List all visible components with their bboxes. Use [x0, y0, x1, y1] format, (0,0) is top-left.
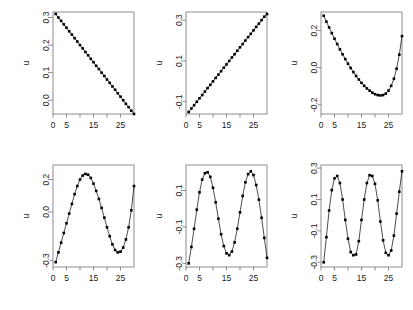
- data-point-marker: [252, 174, 255, 177]
- data-line: [324, 171, 402, 262]
- data-point-marker: [117, 251, 120, 254]
- x-tick-label: 0: [51, 120, 56, 130]
- x-tick-label: 5: [64, 120, 69, 130]
- y-tick-label: 0.3: [41, 11, 51, 23]
- y-tick-label: -0.1: [309, 223, 319, 238]
- data-point-marker: [366, 182, 369, 185]
- data-point-marker: [65, 222, 68, 225]
- plot-box-6: [321, 165, 402, 267]
- data-point-marker: [371, 175, 374, 178]
- x-tick-label: 5: [197, 273, 202, 283]
- data-point-marker: [398, 53, 401, 56]
- y-axis-title: u: [21, 60, 31, 65]
- data-point-marker: [393, 77, 396, 80]
- data-point-marker: [79, 44, 82, 47]
- data-point-marker: [98, 68, 101, 71]
- data-point-marker: [122, 246, 125, 249]
- data-point-marker: [68, 30, 71, 33]
- x-tick-label: 5: [64, 273, 69, 283]
- x-tick-label: 15: [89, 273, 99, 283]
- x-tick-label: 15: [222, 273, 232, 283]
- data-point-marker: [401, 170, 404, 173]
- data-point-marker: [87, 54, 90, 57]
- data-point-marker: [114, 88, 117, 91]
- data-point-marker: [390, 85, 393, 88]
- data-point-marker: [125, 103, 128, 106]
- data-line: [56, 174, 134, 262]
- x-tick-label: 25: [384, 273, 394, 283]
- y-axis-2: -0.10.10.3: [174, 14, 186, 109]
- data-point-marker: [352, 71, 355, 74]
- x-axis-2: 051525: [184, 114, 259, 130]
- data-point-marker: [73, 193, 76, 196]
- data-point-marker: [258, 198, 261, 201]
- data-point-marker: [214, 77, 217, 80]
- data-point-marker: [212, 80, 215, 83]
- plot-panel-4: 051525-0.30.00.2u: [0, 155, 137, 310]
- y-tick-label: 0.1: [309, 193, 319, 205]
- data-point-marker: [198, 191, 201, 194]
- data-point-marker: [54, 13, 57, 16]
- x-tick-label: 25: [249, 120, 259, 130]
- data-point-marker: [127, 226, 130, 229]
- y-axis-title: u: [289, 60, 299, 65]
- data-point-marker: [255, 26, 258, 29]
- x-tick-label: 25: [116, 120, 126, 130]
- data-point-marker: [87, 173, 90, 176]
- data-point-marker: [76, 185, 79, 188]
- y-axis-4: -0.30.00.2: [41, 173, 53, 267]
- data-points: [187, 170, 268, 265]
- data-point-marker: [233, 53, 236, 56]
- x-tick-label: 25: [384, 120, 394, 130]
- data-point-marker: [328, 26, 331, 29]
- data-point-marker: [339, 48, 342, 51]
- data-point-marker: [393, 234, 396, 237]
- data-point-marker: [263, 15, 266, 18]
- data-point-marker: [65, 26, 68, 29]
- data-point-marker: [255, 184, 258, 187]
- data-point-marker: [100, 71, 103, 74]
- data-point-marker: [347, 237, 350, 240]
- data-point-marker: [374, 183, 377, 186]
- data-point-marker: [127, 106, 130, 109]
- data-point-marker: [92, 61, 95, 64]
- data-point-marker: [204, 172, 207, 175]
- x-axis-5: 051525: [184, 267, 259, 283]
- data-point-marker: [379, 94, 382, 97]
- plot-panel-1: 0515250.00.10.20.3u: [0, 2, 137, 157]
- data-point-marker: [360, 82, 363, 85]
- data-point-marker: [217, 217, 220, 220]
- data-point-marker: [331, 189, 334, 192]
- data-point-marker: [228, 254, 231, 257]
- data-point-marker: [198, 97, 201, 100]
- data-points: [54, 173, 135, 264]
- data-point-marker: [187, 111, 190, 114]
- data-point-marker: [201, 94, 204, 97]
- data-point-marker: [90, 177, 93, 180]
- data-point-marker: [341, 198, 344, 201]
- data-point-marker: [341, 53, 344, 56]
- data-point-marker: [106, 78, 109, 81]
- data-point-marker: [214, 201, 217, 204]
- y-tick-label: -0.2: [309, 97, 319, 112]
- x-tick-label: 0: [319, 120, 324, 130]
- multi-panel-figure: 0515250.00.10.20.3u051525-0.10.10.3u0515…: [0, 0, 413, 310]
- data-point-marker: [92, 182, 95, 185]
- data-point-marker: [395, 67, 398, 70]
- data-point-marker: [349, 251, 352, 254]
- plot-canvas-6: 051525-0.3-0.10.10.3u: [268, 155, 408, 310]
- data-point-marker: [374, 93, 377, 96]
- data-point-marker: [220, 233, 223, 236]
- data-point-marker: [336, 43, 339, 46]
- y-axis-title: u: [154, 213, 164, 218]
- data-point-marker: [260, 217, 263, 220]
- data-point-marker: [193, 227, 196, 230]
- y-tick-label: -0.1: [174, 219, 184, 234]
- y-axis-1: 0.00.10.20.3: [41, 11, 53, 106]
- y-axis-title: u: [289, 213, 299, 218]
- y-tick-label: 0.3: [174, 14, 184, 26]
- data-point-marker: [196, 208, 199, 211]
- data-point-marker: [225, 63, 228, 66]
- data-point-marker: [322, 14, 325, 17]
- data-point-marker: [358, 240, 361, 243]
